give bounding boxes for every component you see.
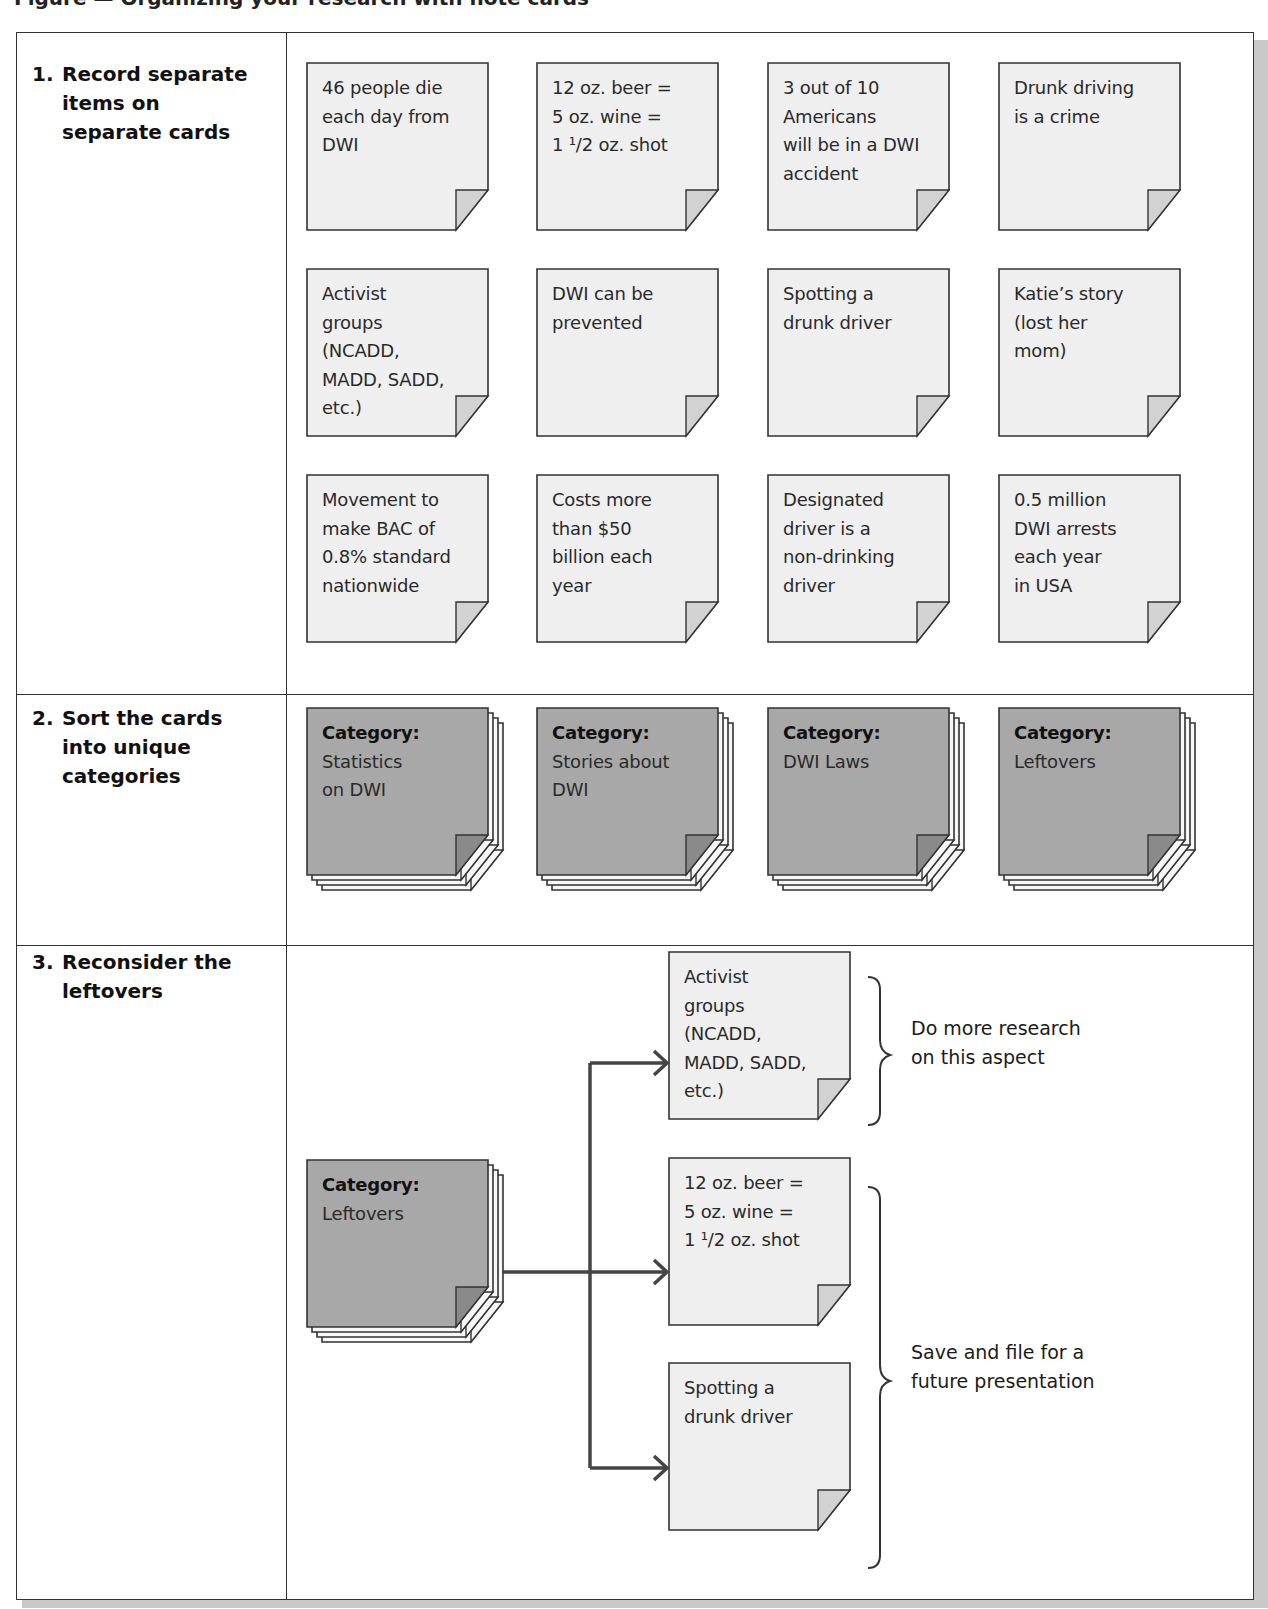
card-line: (NCADD, bbox=[322, 337, 480, 366]
card-line: DWI arrests bbox=[1014, 515, 1172, 544]
card-text: DWI can beprevented bbox=[552, 280, 710, 337]
folded-corner-icon bbox=[917, 835, 949, 875]
folded-corner-icon bbox=[686, 602, 718, 642]
card-line: MADD, SADD, bbox=[684, 1049, 842, 1078]
card-line: Katie’s story bbox=[1014, 280, 1172, 309]
category-card-stack: Category:Leftovers bbox=[998, 707, 1180, 877]
card-line: 0.8% standard bbox=[322, 543, 480, 572]
card-text: Spotting adrunk driver bbox=[783, 280, 941, 337]
step1-card: DWI can beprevented bbox=[536, 268, 718, 438]
card-line: non-drinking bbox=[783, 543, 941, 572]
card-text: Category:Leftovers bbox=[1014, 719, 1172, 776]
step1-card: Costs morethan $50billion eachyear bbox=[536, 474, 718, 644]
step-3-label: 3. Reconsider the leftovers bbox=[32, 948, 252, 1006]
folded-corner-icon bbox=[686, 190, 718, 230]
card-line: DWI bbox=[322, 131, 480, 160]
note-line: Save and file for a bbox=[911, 1338, 1095, 1367]
card-line: DWI can be bbox=[552, 280, 710, 309]
card-line: etc.) bbox=[322, 394, 480, 423]
card-line: drunk driver bbox=[684, 1403, 842, 1432]
step-number: 2. bbox=[32, 704, 54, 733]
card-line: will be in a DWI bbox=[783, 131, 941, 160]
step-number: 1. bbox=[32, 60, 54, 89]
card-line: Movement to bbox=[322, 486, 480, 515]
leftover-target-card: Activistgroups(NCADD,MADD, SADD,etc.) bbox=[668, 951, 850, 1121]
step-2-label: 2. Sort the cards into unique categories bbox=[32, 704, 252, 791]
step1-card: 12 oz. beer =5 oz. wine =1 ¹/2 oz. shot bbox=[536, 62, 718, 232]
card-line: accident bbox=[783, 160, 941, 189]
card-line: year bbox=[552, 572, 710, 601]
card-line: is a crime bbox=[1014, 103, 1172, 132]
card-line: 46 people die bbox=[322, 74, 480, 103]
card-text: Category:Statisticson DWI bbox=[322, 719, 480, 805]
card-line: 0.5 million bbox=[1014, 486, 1172, 515]
card-line: (NCADD, bbox=[684, 1020, 842, 1049]
card-line: in USA bbox=[1014, 572, 1172, 601]
note-line: Do more research bbox=[911, 1014, 1081, 1043]
folded-corner-icon bbox=[456, 602, 488, 642]
step-text: Reconsider the leftovers bbox=[32, 948, 252, 1006]
card-line: DWI bbox=[552, 776, 710, 805]
card-text: 3 out of 10Americanswill be in a DWIacci… bbox=[783, 74, 941, 188]
card-line: Activist bbox=[684, 963, 842, 992]
card-line: nationwide bbox=[322, 572, 480, 601]
card-line: 12 oz. beer = bbox=[684, 1169, 842, 1198]
folded-corner-icon bbox=[917, 602, 949, 642]
note-more-research: Do more research on this aspect bbox=[911, 1014, 1081, 1072]
folded-corner-icon bbox=[1148, 602, 1180, 642]
folded-corner-icon bbox=[686, 396, 718, 436]
step1-card: 46 people dieeach day fromDWI bbox=[306, 62, 488, 232]
category-heading: Category: bbox=[322, 719, 480, 748]
category-card-stack: Category:Statisticson DWI bbox=[306, 707, 488, 877]
card-line: 1 ¹/2 oz. shot bbox=[552, 131, 710, 160]
step1-card: 3 out of 10Americanswill be in a DWIacci… bbox=[767, 62, 949, 232]
folded-corner-icon bbox=[1148, 396, 1180, 436]
card-line: groups bbox=[322, 309, 480, 338]
card-text: Category:DWI Laws bbox=[783, 719, 941, 776]
card-line: DWI Laws bbox=[783, 748, 941, 777]
card-line: Statistics bbox=[322, 748, 480, 777]
card-line: Spotting a bbox=[783, 280, 941, 309]
category-heading: Category: bbox=[1014, 719, 1172, 748]
card-line: 12 oz. beer = bbox=[552, 74, 710, 103]
step-1-label: 1. Record separate items on separate car… bbox=[32, 60, 252, 147]
row-divider-1 bbox=[17, 694, 1253, 695]
card-line: than $50 bbox=[552, 515, 710, 544]
card-line: Drunk driving bbox=[1014, 74, 1172, 103]
card-text: 12 oz. beer =5 oz. wine =1 ¹/2 oz. shot bbox=[552, 74, 710, 160]
card-line: each year bbox=[1014, 543, 1172, 572]
card-line: 5 oz. wine = bbox=[552, 103, 710, 132]
card-line: 1 ¹/2 oz. shot bbox=[684, 1226, 842, 1255]
step1-card: Spotting adrunk driver bbox=[767, 268, 949, 438]
card-text: Movement tomake BAC of0.8% standardnatio… bbox=[322, 486, 480, 600]
folded-corner-icon bbox=[456, 190, 488, 230]
card-text: Drunk drivingis a crime bbox=[1014, 74, 1172, 131]
step-number: 3. bbox=[32, 948, 54, 977]
step1-card: Katie’s story(lost hermom) bbox=[998, 268, 1180, 438]
note-save-file: Save and file for a future presentation bbox=[911, 1338, 1095, 1396]
card-text: Category:Leftovers bbox=[322, 1171, 480, 1228]
category-heading: Category: bbox=[552, 719, 710, 748]
note-line: future presentation bbox=[911, 1367, 1095, 1396]
card-line: Activist bbox=[322, 280, 480, 309]
card-line: each day from bbox=[322, 103, 480, 132]
card-text: Designateddriver is anon-drinkingdriver bbox=[783, 486, 941, 600]
card-line: Designated bbox=[783, 486, 941, 515]
category-heading: Category: bbox=[322, 1171, 480, 1200]
folded-corner-icon bbox=[1148, 835, 1180, 875]
step1-card: Drunk drivingis a crime bbox=[998, 62, 1180, 232]
card-line: Leftovers bbox=[322, 1200, 480, 1229]
card-text: Category:Stories aboutDWI bbox=[552, 719, 710, 805]
card-line: on DWI bbox=[322, 776, 480, 805]
note-line: on this aspect bbox=[911, 1043, 1081, 1072]
card-text: Activistgroups(NCADD,MADD, SADD,etc.) bbox=[684, 963, 842, 1106]
step1-card: Designateddriver is anon-drinkingdriver bbox=[767, 474, 949, 644]
card-line: 5 oz. wine = bbox=[684, 1198, 842, 1227]
card-line: Americans bbox=[783, 103, 941, 132]
folded-corner-icon bbox=[917, 190, 949, 230]
card-text: Spotting adrunk driver bbox=[684, 1374, 842, 1431]
row-divider-2 bbox=[17, 945, 1253, 946]
card-line: Costs more bbox=[552, 486, 710, 515]
card-line: Stories about bbox=[552, 748, 710, 777]
leftovers-card-stack: Category:Leftovers bbox=[306, 1159, 488, 1329]
